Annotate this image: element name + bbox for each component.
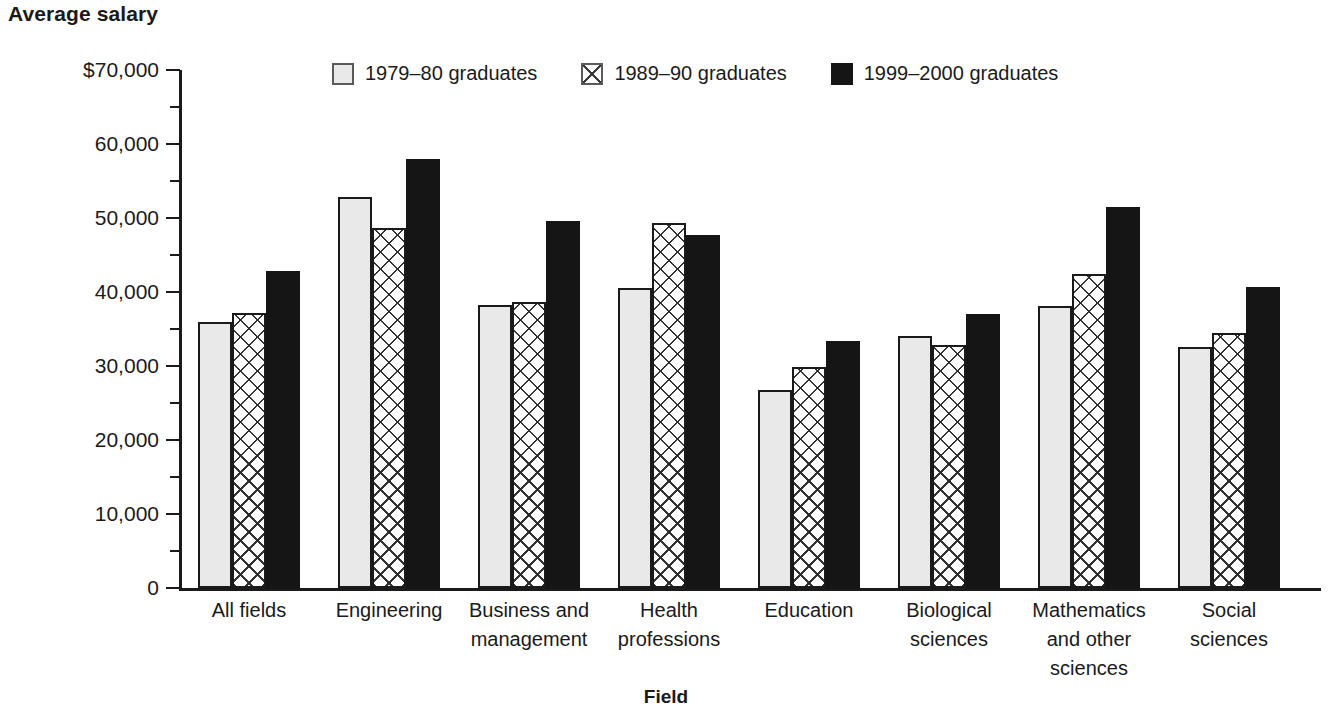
bar	[898, 336, 932, 588]
bar	[338, 197, 372, 588]
y-axis-tick-label: 30,000	[4, 355, 159, 376]
y-axis-tick-major	[166, 439, 180, 441]
x-axis-category-label: Social sciences	[1156, 596, 1302, 654]
x-axis-category-label: Health professions	[596, 596, 742, 654]
y-axis-tick-label: 0	[4, 577, 159, 598]
bar	[478, 305, 512, 588]
bar	[686, 235, 720, 588]
bar	[932, 345, 966, 588]
y-axis-tick-major	[166, 143, 180, 145]
bar	[652, 223, 686, 588]
x-axis-category-label: Business and management	[456, 596, 602, 654]
y-axis-tick-label: $70,000	[4, 59, 159, 80]
bar	[826, 341, 860, 588]
y-axis-tick-major	[166, 513, 180, 515]
bar	[1038, 306, 1072, 588]
y-axis-tick-label: 50,000	[4, 207, 159, 228]
y-axis-tick-major	[166, 365, 180, 367]
bar	[1072, 274, 1106, 588]
y-axis-tick-minor	[170, 328, 180, 330]
bar	[232, 313, 266, 588]
x-axis-title: Field	[0, 686, 1332, 708]
y-axis-tick-minor	[170, 476, 180, 478]
y-axis-tick-minor	[170, 106, 180, 108]
y-axis-tick-label: 10,000	[4, 503, 159, 524]
y-axis-tick-major	[166, 69, 180, 71]
y-axis-tick-major	[166, 587, 180, 589]
y-axis-tick-minor	[170, 180, 180, 182]
y-axis-title: Average salary	[8, 2, 158, 26]
bar	[758, 390, 792, 588]
y-axis-tick-label: 40,000	[4, 281, 159, 302]
bar	[1106, 207, 1140, 588]
bar	[546, 221, 580, 588]
y-axis-tick-minor	[170, 402, 180, 404]
bar-chart: Average salary 1979–80 graduates1989–90 …	[0, 0, 1332, 719]
x-axis-category-label: Mathematics and other sciences	[1016, 596, 1162, 683]
bar	[966, 314, 1000, 588]
x-axis-category-label: Engineering	[316, 596, 462, 625]
bar	[618, 288, 652, 588]
bar	[198, 322, 232, 588]
bar	[1246, 287, 1280, 588]
bar	[792, 367, 826, 588]
plot-area: $70,00060,00050,00040,00030,00020,00010,…	[179, 70, 1319, 588]
bar	[512, 302, 546, 588]
bar	[372, 228, 406, 588]
x-axis-category-label: Education	[736, 596, 882, 625]
y-axis-tick-minor	[170, 550, 180, 552]
x-axis-category-label: All fields	[176, 596, 322, 625]
bar	[1178, 347, 1212, 588]
bar	[406, 159, 440, 588]
bar	[266, 271, 300, 588]
y-axis-tick-label: 60,000	[4, 133, 159, 154]
y-axis-tick-minor	[170, 254, 180, 256]
x-axis-line	[179, 588, 1321, 591]
y-axis-tick-major	[166, 291, 180, 293]
y-axis-tick-label: 20,000	[4, 429, 159, 450]
x-axis-category-label: Biological sciences	[876, 596, 1022, 654]
y-axis-tick-major	[166, 217, 180, 219]
bar	[1212, 333, 1246, 588]
